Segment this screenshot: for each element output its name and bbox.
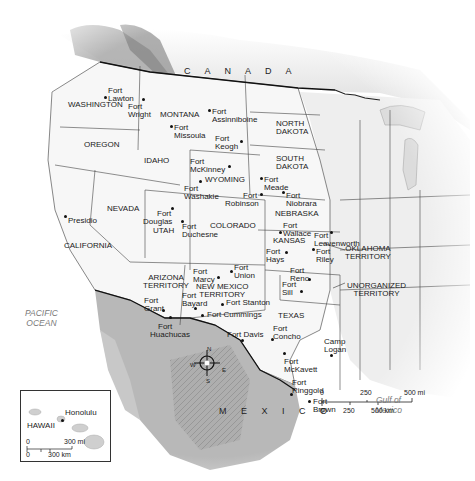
fort-marker [228,165,231,168]
scale-km-0: 0 [320,407,324,414]
ok-line2: TERRITORY [345,253,391,261]
fort-assinniboine: FortAssinniboine [212,108,257,124]
state-south-dakota: SOUTH DAKOTA [276,155,308,171]
fort-marker [170,125,173,128]
scale-km-500: 500 km [371,407,394,414]
fort-davis: Fort Davis [227,331,263,339]
scale-mi-500: 500 mi [404,389,425,396]
fort-marker [169,316,172,319]
state-idaho: IDAHO [144,157,169,165]
state-unorganized-territory: UNORGANIZED TERRITORY [347,282,406,298]
state-texas: TEXAS [278,312,304,320]
pacific-line2: OCEAN [25,318,58,328]
fort-wallace: FortWallace [283,222,311,238]
fort-douglas: FortDouglas [143,210,172,226]
fort-brown: FortBrown [313,398,336,414]
fort-marker [283,352,286,355]
fort-washakie: FortWashakie [184,185,219,201]
fort-riley: FortRiley [316,248,334,264]
fort-marker [208,109,211,112]
gulf-line1: Gulf of [375,395,402,405]
scale-mi-250: 250 [360,389,372,396]
fort-marker [308,400,311,403]
scale-mi-0: 0 [320,389,324,396]
fort-leavenworth: FortLeavenworth [314,232,360,248]
scale-km-250: 250 [343,407,355,414]
pacific-line1: PACIFIC [25,308,58,318]
fort-robinson: FortRobinson [225,192,259,208]
state-oregon: OREGON [84,141,120,149]
az-line2: TERRITORY [143,282,189,290]
presidio: Presidio [68,217,97,225]
hawaii-scale-km-0: 0 [26,451,30,458]
fort-marker [230,270,233,273]
fort-concho: FortConcho [273,325,301,341]
fort-meade: FortMeade [264,176,288,192]
fort-marker [279,231,282,234]
hawaii-scale-mi-300: 300 mi [64,438,85,445]
ut-line2: TERRITORY [347,290,406,298]
fort-marker [104,96,107,99]
hawaii-label: HAWAII [27,422,55,430]
state-utah: UTAH [153,227,174,235]
fort-grant: FortGrant [144,297,164,313]
state-kansas: KANSAS [273,237,305,245]
state-montana: MONTANA [160,111,199,119]
fort-marker [217,276,220,279]
sd-line2: DAKOTA [276,163,308,171]
compass-s: S [206,377,210,385]
fort-sill: FortSill [282,281,296,297]
state-nevada: NEVADA [107,205,139,213]
fort-marker [330,354,333,357]
fort-marker [260,193,263,196]
fort-marker [300,290,303,293]
fort-lawton: FortLawton [108,87,134,103]
fort-stanton: Fort Stanton [226,299,270,307]
fort-marker [260,177,263,180]
fort-marker [199,180,202,183]
fort-marker [241,339,244,342]
label-pacific-ocean: PACIFIC OCEAN [25,308,58,328]
hawaii-scale-mi-0: 0 [26,438,30,445]
honolulu-label: Honolulu [65,409,97,417]
fort-marker [312,248,315,251]
fort-wright: FortWright [128,103,151,119]
state-california: CALIFORNIA [64,242,112,250]
fort-union: FortUnion [234,264,255,280]
fort-cummings: Fort Cummings [207,311,262,319]
fort-marker [285,251,288,254]
fort-niobrara: FortNiobrara [286,192,317,208]
state-wyoming: WYOMING [205,176,245,184]
state-arizona: ARIZONA TERRITORY [143,274,189,290]
fort-marcy: FortMarcy [193,268,215,284]
fort-marker [142,98,145,101]
map-canvas: C A N A D A M E X I C O PACIFIC OCEAN Gu… [0,0,475,481]
compass-e: E [222,366,226,374]
fort-huachucas: FortHuachucas [150,323,190,339]
fort-marker [64,215,67,218]
fort-mckinney: FortMcKinney [190,158,225,174]
state-north-dakota: NORTH DAKOTA [276,120,308,136]
fort-marker [201,314,204,317]
honolulu-marker [61,419,64,422]
fort-mckavett: FortMcKavett [284,358,317,374]
fort-keogh: FortKeogh [215,135,238,151]
label-canada: C A N A D A [184,67,298,75]
fort-bayard: FortBayard [182,292,207,308]
fort-ringgold: FortRinggold [292,379,324,395]
fort-missoula: FortMissoula [174,124,206,140]
fort-duchesne: FortDuchesne [182,223,218,239]
fort-hays: FortHays [266,248,284,264]
nd-line2: DAKOTA [276,128,308,136]
state-nebraska: NEBRASKA [275,210,319,218]
compass-n: N [207,345,211,353]
fort-marker [282,191,285,194]
camp-logan: CampLogan [324,338,346,354]
fort-marker [221,303,224,306]
fort-marker [240,140,243,143]
compass-w: W [190,361,196,369]
hawaii-scale-km-300: 300 km [48,451,71,458]
